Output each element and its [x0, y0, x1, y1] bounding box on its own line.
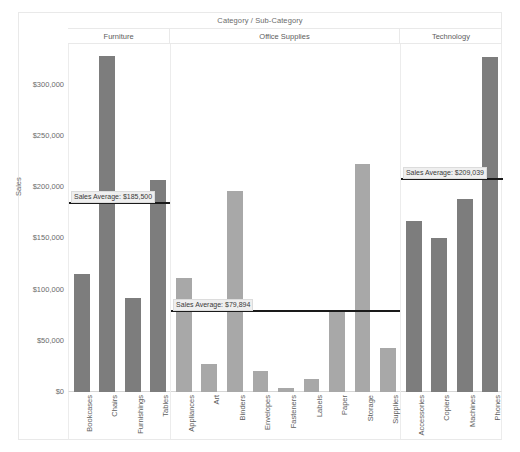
bar-supplies[interactable]	[380, 348, 396, 392]
panel-furniture: Sales Average: $185,500	[69, 44, 171, 392]
reference-line-label: Sales Average: $185,500	[71, 191, 155, 203]
category-header-technology[interactable]: Technology	[400, 29, 502, 43]
x-axis-tick-label[interactable]: Copiers	[442, 395, 451, 421]
x-axis-tick-label[interactable]: Art	[212, 395, 221, 405]
x-axis-tick-label[interactable]: Accessories	[417, 395, 426, 435]
y-axis-tick-label: $300,000	[12, 80, 64, 89]
x-axis-tick-label[interactable]: Appliances	[187, 395, 196, 432]
bar-phones[interactable]	[482, 57, 498, 392]
y-axis-tick-label: $100,000	[12, 285, 64, 294]
bar-chairs[interactable]	[99, 56, 115, 392]
y-axis-tick-label: $150,000	[12, 233, 64, 242]
y-axis-tick-label: $250,000	[12, 131, 64, 140]
x-axis-tick-label[interactable]: Phones	[493, 395, 502, 420]
category-header-furniture[interactable]: Furniture	[68, 29, 170, 43]
category-header-label: Technology	[432, 32, 470, 41]
y-axis: $300,000$250,000$200,000$150,000$100,000…	[8, 44, 64, 392]
bar-envelopes[interactable]	[253, 371, 269, 392]
x-label-panel-office-supplies: AppliancesArtBindersEnvelopesFastenersLa…	[171, 392, 401, 439]
y-axis-tick-label: $50,000	[12, 336, 64, 345]
category-header-band: FurnitureOffice SuppliesTechnology	[68, 28, 502, 44]
x-axis-tick-label[interactable]: Tables	[161, 395, 170, 417]
x-axis-tick-label[interactable]: Binders	[238, 395, 247, 420]
panel-office-supplies: Sales Average: $79,894	[171, 44, 401, 392]
bar-storage[interactable]	[355, 164, 371, 392]
visualization-canvas: Category / Sub-Category FurnitureOffice …	[0, 0, 520, 452]
category-header-label: Office Supplies	[259, 32, 309, 41]
reference-line-label: Sales Average: $209,039	[403, 167, 487, 179]
x-axis-tick-label[interactable]: Labels	[315, 395, 324, 417]
category-header-office-supplies[interactable]: Office Supplies	[170, 29, 400, 43]
bar-furnishings[interactable]	[125, 298, 141, 392]
category-header-label: Furniture	[104, 32, 134, 41]
x-axis-tick-label[interactable]: Bookcases	[85, 395, 94, 432]
x-axis-tick-label[interactable]: Fasteners	[289, 395, 298, 428]
bar-labels[interactable]	[304, 379, 320, 392]
x-axis-tick-label[interactable]: Chairs	[110, 395, 119, 417]
reference-line-label: Sales Average: $79,894	[173, 299, 253, 311]
x-label-panel-technology: AccessoriesCopiersMachinesPhones	[401, 392, 503, 439]
y-axis-title: Sales	[14, 177, 23, 196]
y-axis-tick-label: $0	[12, 387, 64, 396]
bar-appliances[interactable]	[176, 278, 192, 392]
x-axis-tick-label[interactable]: Envelopes	[263, 395, 272, 430]
plot-area: Sales Average: $185,500Sales Average: $7…	[68, 44, 502, 392]
bar-copiers[interactable]	[431, 238, 447, 392]
x-axis-tick-label[interactable]: Machines	[468, 395, 477, 427]
x-axis-label-band: BookcasesChairsFurnishingsTablesApplianc…	[68, 392, 502, 440]
chart-title: Category / Sub-Category	[18, 16, 502, 25]
bar-art[interactable]	[201, 364, 217, 392]
x-axis-tick-label[interactable]: Supplies	[391, 395, 400, 424]
bar-paper[interactable]	[329, 312, 345, 392]
bar-tables[interactable]	[150, 180, 166, 392]
bar-accessories[interactable]	[406, 221, 422, 392]
x-label-panel-furniture: BookcasesChairsFurnishingsTables	[69, 392, 171, 439]
bar-binders[interactable]	[227, 191, 243, 392]
bar-machines[interactable]	[457, 199, 473, 392]
bar-bookcases[interactable]	[74, 274, 90, 392]
x-axis-tick-label[interactable]: Paper	[340, 395, 349, 415]
panel-technology: Sales Average: $209,039	[401, 44, 503, 392]
x-axis-tick-label[interactable]: Furnishings	[136, 395, 145, 434]
x-axis-tick-label[interactable]: Storage	[366, 395, 375, 421]
